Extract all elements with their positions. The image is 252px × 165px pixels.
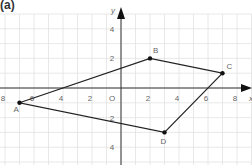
- vertex-label-d: D: [161, 137, 167, 146]
- axes: yx: [0, 6, 252, 165]
- x-axis-arrow-icon: [241, 84, 252, 92]
- vertex-point-b: [148, 56, 152, 60]
- x-tick-label: 4: [59, 94, 64, 103]
- vertex-point-d: [162, 130, 166, 134]
- coordinate-plane: yx 864224684224O ABCD: [0, 0, 252, 165]
- vertex-point-c: [220, 71, 224, 75]
- x-tick-label: 8: [1, 94, 6, 103]
- x-tick-label: 2: [88, 94, 93, 103]
- origin-label: O: [109, 94, 115, 103]
- y-tick-label: 4: [110, 143, 115, 152]
- vertex-label-c: C: [227, 62, 233, 71]
- x-tick-label: 4: [175, 94, 180, 103]
- vertex-label-a: A: [14, 105, 20, 114]
- x-axis-label: x: [248, 94, 252, 103]
- y-tick-label: 4: [110, 25, 115, 34]
- vertex-label-b: B: [153, 46, 158, 55]
- x-tick-label: 6: [204, 94, 209, 103]
- grid: [0, 14, 252, 165]
- x-tick-label: 2: [146, 94, 151, 103]
- x-tick-label: 8: [233, 94, 238, 103]
- y-tick-label: 2: [110, 54, 115, 63]
- y-axis-arrow-icon: [117, 7, 125, 19]
